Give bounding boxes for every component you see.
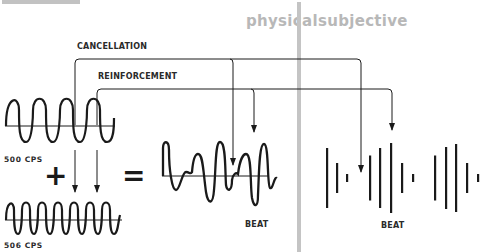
beat-bar: [455, 144, 457, 212]
beat-bar: [434, 156, 436, 201]
physical-subjective-divider: [297, 2, 301, 252]
beat-bar: [412, 174, 414, 182]
cancellation-connector: [75, 59, 361, 192]
beat-bar: [379, 148, 381, 208]
wave-500cps: [5, 99, 115, 142]
beat-bar: [445, 147, 447, 209]
beat-bars-subjective: [326, 143, 479, 213]
beat-bar: [326, 148, 328, 208]
beat-bar: [336, 163, 338, 193]
wave-506cps: [5, 203, 122, 235]
beat-waveform-physical: [162, 142, 277, 205]
beat-bar: [369, 156, 371, 201]
beat-bar: [346, 174, 348, 182]
beat-diagram: [0, 0, 482, 252]
beat-bar: [401, 163, 403, 193]
beat-bar: [466, 163, 468, 193]
beat-bar: [477, 174, 479, 182]
beat-bar: [390, 143, 392, 213]
